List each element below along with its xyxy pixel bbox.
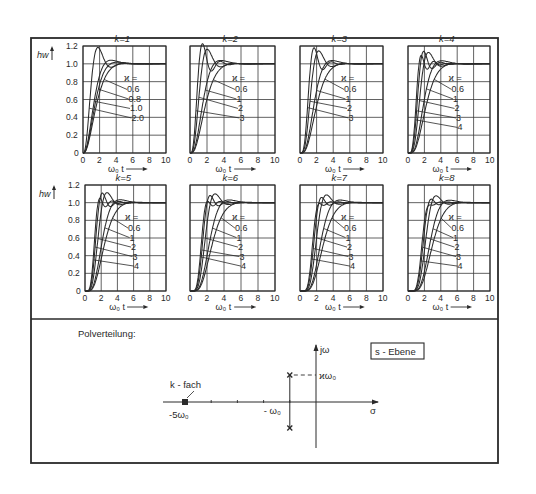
panel-title: k=5 <box>116 172 132 183</box>
x-tick-label: 2 <box>422 293 427 303</box>
kappa-legend-item: 3 <box>239 113 244 123</box>
figure-canvas: k=10246810ω₀ t00.20.40.60.81.01.2hᴡϰ =0.… <box>0 0 536 494</box>
kappa-legend-item: 3 <box>456 252 461 262</box>
arrowhead-icon <box>143 305 148 309</box>
y-tick-label: 1.2 <box>68 180 80 190</box>
arrowhead-icon <box>50 46 54 51</box>
x-tick-label: 10 <box>485 293 495 303</box>
kappa-legend-item: 2 <box>131 242 136 252</box>
s-plane-label: s - Ebene <box>375 346 416 357</box>
y-tick-label: 1.2 <box>66 41 78 51</box>
multi-pole-label: k - fach <box>170 379 201 390</box>
kappa-legend-item: 1 <box>130 233 135 243</box>
x-tick-label: 6 <box>131 293 136 303</box>
x-tick-label: 0 <box>188 293 193 303</box>
leader-line <box>98 89 128 99</box>
x-tick-label: 6 <box>347 155 352 165</box>
x-tick-label: 6 <box>130 155 135 165</box>
x-tick-label: 2 <box>314 293 319 303</box>
panel-title: k=6 <box>223 172 239 183</box>
arrowhead-icon <box>372 400 379 405</box>
x-tick-label: 6 <box>455 155 460 165</box>
leader-line <box>98 239 131 248</box>
pole-diagram: Polverteilung: s - Ebene σjωϰω₀- ω₀k - f… <box>78 328 424 448</box>
x-tick-label: 0 <box>188 155 193 165</box>
kappa-legend-item: 0.8 <box>129 94 142 104</box>
multi-pole-value: -5ω₀ <box>169 409 189 420</box>
y-tick-label: 0.4 <box>66 112 78 122</box>
leader-line <box>89 108 131 118</box>
x-tick-label: 10 <box>485 155 495 165</box>
leader-line <box>187 391 194 398</box>
kappa-legend-item: 1 <box>236 94 241 104</box>
step-response-panels: k=10246810ω₀ t00.20.40.60.81.01.2hᴡϰ =0.… <box>37 33 495 312</box>
y-tick-label: 0.6 <box>68 233 80 243</box>
x-tick-label: 10 <box>378 155 388 165</box>
step-response-panel-k8: k=80246810ω₀ tϰ =0.61234 <box>406 172 495 312</box>
x-tick-label: 2 <box>205 155 210 165</box>
grid <box>83 46 166 153</box>
panel-title: k=8 <box>439 172 455 183</box>
curve-kappa-2 <box>408 196 490 291</box>
kappa-legend-item: 4 <box>458 261 463 271</box>
arrowhead-icon <box>251 167 256 171</box>
kappa-legend-title: ϰ = <box>232 212 245 222</box>
kappa-legend-item: 3 <box>349 252 354 262</box>
curves <box>408 196 490 291</box>
leader-line <box>205 238 238 247</box>
kappa-legend-item: 2 <box>238 242 243 252</box>
kappa-legend-item: 4 <box>134 261 139 271</box>
y-tick-label: 0.8 <box>68 215 80 225</box>
kappa-legend-item: 0.6 <box>452 84 465 94</box>
arrowhead-icon <box>314 344 319 351</box>
x-tick-label: 8 <box>364 155 369 165</box>
step-response-panel-k1: k=10246810ω₀ t00.20.40.60.81.01.2hᴡϰ =0.… <box>37 33 171 174</box>
x-tick-label: 8 <box>471 293 476 303</box>
pole-diagram-title: Polverteilung: <box>78 328 136 339</box>
curves <box>408 51 490 153</box>
curves <box>85 193 166 291</box>
kappa-legend-item: 4 <box>458 122 463 132</box>
arrowhead-icon <box>360 167 365 171</box>
x-tick-label: 10 <box>161 293 171 303</box>
x-tick-label: 2 <box>205 293 210 303</box>
x-tick-label: 0 <box>298 155 303 165</box>
leader-line <box>426 89 453 99</box>
multi-pole-icon <box>182 399 188 405</box>
kappa-legend-item: 1 <box>346 233 351 243</box>
y-tick-label: 0 <box>76 286 81 296</box>
x-tick-label: 6 <box>455 293 460 303</box>
kappa-legend-item: 0.6 <box>127 84 140 94</box>
curve-kappa-3 <box>408 51 490 153</box>
kappa-legend-title: ϰ = <box>124 73 137 83</box>
grid <box>408 185 490 291</box>
kappa-legend-item: 0.6 <box>344 84 357 94</box>
x-tick-label: 8 <box>471 155 476 165</box>
leader-line <box>205 90 236 99</box>
complex-plane-axes: σjωϰω₀- ω₀k - fach-5ω₀ <box>163 344 379 448</box>
x-tick-label: 10 <box>161 155 171 165</box>
panel-title: k=3 <box>332 33 348 44</box>
x-tick-label: 10 <box>270 293 280 303</box>
x-tick-label: 8 <box>147 155 152 165</box>
s-plane-badge: s - Ebene <box>371 343 424 359</box>
imag-axis-label: jω <box>319 344 330 355</box>
x-tick-label: 6 <box>347 293 352 303</box>
y-tick-label: 0.6 <box>66 95 78 105</box>
x-tick-label: 2 <box>422 155 427 165</box>
x-axis-label: ω₀ t <box>325 302 341 312</box>
panel-title: k=4 <box>439 33 455 44</box>
kappa-legend-title: ϰ = <box>232 73 245 83</box>
x-tick-label: 6 <box>239 155 244 165</box>
grid <box>300 185 383 291</box>
step-response-panel-k6: k=60246810ω₀ tϰ =0.61234 <box>188 172 280 312</box>
x-tick-label: 0 <box>406 155 411 165</box>
kappa-legend-item: 1 <box>346 94 351 104</box>
leader-line <box>93 260 134 266</box>
x-tick-label: 8 <box>147 293 152 303</box>
x-axis-label: ω₀ t <box>109 302 125 312</box>
x-tick-label: 8 <box>256 293 261 303</box>
kappa-legend-item: 0.6 <box>344 223 357 233</box>
kappa-legend-item: 4 <box>241 261 246 271</box>
kappa-legend-item: 2 <box>455 242 460 252</box>
